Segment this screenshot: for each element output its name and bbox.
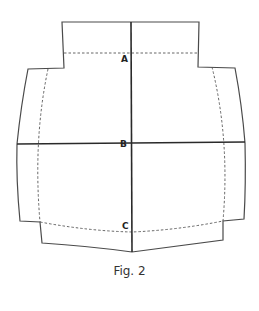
label-b: B (120, 139, 127, 149)
vertical-center-line (131, 22, 132, 252)
seam-line-right (212, 67, 225, 221)
figure-caption: Fig. 2 (0, 264, 259, 278)
horizontal-b-line (17, 142, 245, 144)
seam-line-left (38, 69, 48, 222)
label-c: C (122, 221, 129, 231)
label-a: A (121, 54, 128, 64)
